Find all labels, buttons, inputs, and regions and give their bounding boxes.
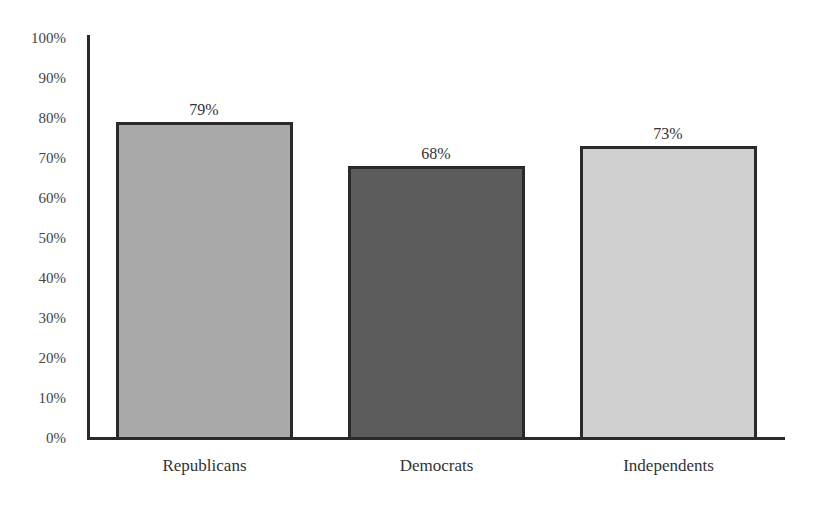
x-category-label: Democrats	[337, 456, 537, 476]
y-tick-label: 100%	[0, 30, 66, 46]
y-tick-label: 50%	[0, 230, 66, 246]
y-tick-label: 90%	[0, 70, 66, 86]
y-tick-label: 60%	[0, 190, 66, 206]
y-tick-label: 70%	[0, 150, 66, 166]
y-tick-label: 80%	[0, 110, 66, 126]
x-category-label: Republicans	[105, 456, 305, 476]
bar-chart: 0%10%20%30%40%50%60%70%80%90%100% 79%68%…	[0, 0, 821, 507]
y-axis-line	[87, 35, 90, 440]
x-axis-line	[87, 437, 785, 440]
bar-value-label: 68%	[348, 145, 524, 163]
bar-value-label: 79%	[116, 101, 292, 119]
y-tick-label: 40%	[0, 270, 66, 286]
x-category-label: Independents	[569, 456, 769, 476]
bar-independents	[580, 146, 757, 438]
y-tick-label: 10%	[0, 390, 66, 406]
y-tick-label: 30%	[0, 310, 66, 326]
bar-democrats	[348, 166, 525, 438]
y-tick-label: 20%	[0, 350, 66, 366]
bar-value-label: 73%	[580, 125, 756, 143]
bar-republicans	[116, 122, 293, 438]
y-tick-label: 0%	[0, 430, 66, 446]
